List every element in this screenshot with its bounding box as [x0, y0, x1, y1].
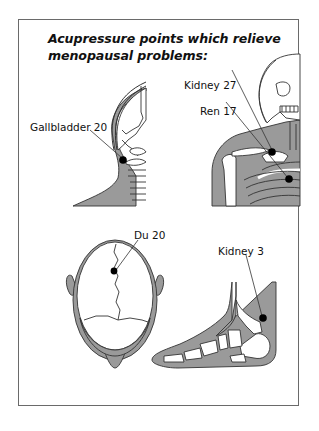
- label-du-20: Du 20: [134, 229, 165, 241]
- du-20-point: [111, 268, 118, 275]
- side-head-figure: [73, 82, 146, 206]
- label-kidney-3: Kidney 3: [218, 245, 264, 257]
- label-kidney-27: Kidney 27: [184, 79, 237, 91]
- top-head-figure: [66, 240, 163, 368]
- foot-figure: [152, 255, 276, 368]
- kidney-27-point: [268, 148, 276, 156]
- ren-17-point: [285, 175, 293, 183]
- gallbladder-20-point: [119, 156, 127, 164]
- torso-skeleton-figure: [212, 54, 300, 206]
- label-ren-17: Ren 17: [200, 105, 237, 117]
- kidney-3-point: [259, 314, 267, 322]
- illustration-art: [0, 0, 319, 431]
- label-gallbladder-20: Gallbladder 20: [30, 121, 107, 133]
